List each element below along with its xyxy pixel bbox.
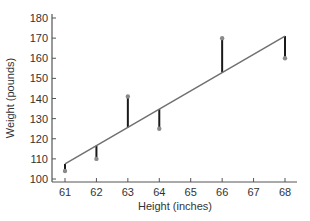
x-tick-label: 65 [185, 186, 197, 198]
x-axis-label: Height (inches) [138, 200, 212, 212]
x-tick-label: 68 [279, 186, 291, 198]
x-tick-label: 61 [59, 186, 71, 198]
regression-line [65, 36, 285, 164]
x-tick-label: 64 [153, 186, 165, 198]
y-tick-label: 150 [30, 72, 48, 84]
axes: 1001101201301401501601701806162636465666… [30, 12, 297, 198]
data-point [126, 94, 130, 98]
fit-line [65, 36, 285, 164]
data-point [157, 126, 161, 130]
x-tick-label: 63 [122, 186, 134, 198]
scatter-regression-chart: 1001101201301401501601701806162636465666… [0, 0, 310, 221]
x-tick-label: 67 [247, 186, 259, 198]
x-tick-label: 62 [90, 186, 102, 198]
data-point [63, 169, 67, 173]
x-tick-label: 66 [216, 186, 228, 198]
chart-canvas: 1001101201301401501601701806162636465666… [0, 0, 310, 221]
data-point [94, 157, 98, 161]
y-tick-label: 140 [30, 93, 48, 105]
y-tick-label: 120 [30, 133, 48, 145]
data-point [220, 36, 224, 40]
y-tick-label: 130 [30, 113, 48, 125]
residual-lines [65, 36, 285, 171]
y-tick-label: 180 [30, 12, 48, 24]
y-tick-label: 100 [30, 173, 48, 185]
y-tick-label: 170 [30, 32, 48, 44]
data-point [283, 56, 287, 60]
y-tick-label: 160 [30, 52, 48, 64]
y-tick-label: 110 [30, 153, 48, 165]
y-axis-label: Weight (pounds) [4, 58, 16, 139]
